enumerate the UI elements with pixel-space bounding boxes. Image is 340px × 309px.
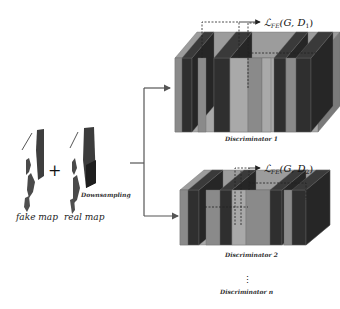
discriminator-1-block	[175, 32, 340, 132]
branch-connector	[130, 88, 178, 216]
slab-front	[286, 58, 296, 132]
slab-front	[180, 190, 188, 245]
slab-front	[248, 58, 262, 132]
downsampling-label: Downsampling	[80, 191, 131, 199]
slab-front	[246, 190, 270, 245]
slab-front	[214, 58, 230, 132]
discriminator-1-label: Discriminator 1	[224, 135, 278, 142]
slab-front	[292, 190, 306, 245]
slab-front	[206, 190, 220, 245]
slab-front	[274, 58, 286, 132]
slab-front	[270, 190, 282, 245]
discriminator-2-label: Discriminator 2	[224, 251, 278, 258]
slab-front	[182, 58, 192, 132]
discriminator-1-loss: ℒFE(G, D1)	[264, 17, 313, 29]
slab-front	[230, 58, 248, 132]
discriminator-2-block	[180, 170, 330, 245]
real-map-label: real map	[64, 212, 105, 222]
slab-front	[232, 190, 246, 245]
real-map-image	[70, 127, 96, 214]
discriminator-n-label: Discriminator n	[219, 288, 273, 295]
slab-front	[198, 58, 206, 132]
slab-front	[262, 58, 271, 132]
slab-front	[175, 58, 182, 132]
ellipsis: ⋮	[243, 275, 252, 285]
fake-map-image	[22, 129, 44, 212]
slab-front	[296, 58, 311, 132]
slab-front	[284, 190, 292, 245]
plus-symbol: +	[48, 161, 61, 180]
fake-map-label: fake map	[15, 212, 58, 222]
gan-discriminator-diagram: + Downsampling fake map real map ℒFE(G, …	[0, 0, 340, 309]
discriminator-2-loss: ℒFE(G, D2)	[264, 163, 313, 175]
slab-front	[188, 190, 199, 245]
slab-front	[220, 190, 232, 245]
